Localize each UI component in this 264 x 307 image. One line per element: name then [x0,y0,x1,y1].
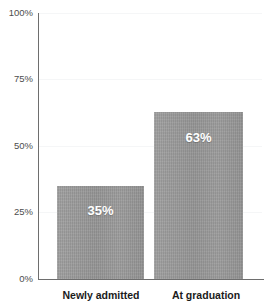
x-category-label-newly-admitted: Newly admitted [46,288,156,302]
y-tick-label-0: 0% [0,274,33,284]
y-tick-label-100: 100% [0,8,33,18]
y-tick-label-75: 75% [0,74,33,84]
x-axis-line [38,279,264,280]
bar-chart: 35% 63% 100% 75% 50% 25% 0% Newly admitt… [0,0,264,307]
y-tick-label-50: 50% [0,141,33,151]
chart-title [0,0,264,5]
x-axis-categories: Newly admitted At graduation [38,288,262,304]
y-tick-label-25: 25% [0,207,33,217]
x-category-label-at-graduation: At graduation [156,288,256,302]
y-axis-ticks: 100% 75% 50% 25% 0% [0,13,264,279]
